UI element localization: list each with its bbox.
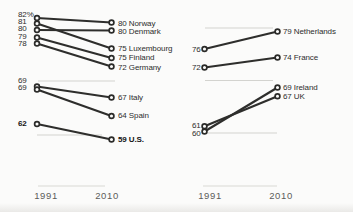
value-label-1991-spain: 69: [18, 83, 27, 93]
value-label-1991-netherlands: 76: [192, 45, 201, 55]
country-label-finland: 75 Finland: [118, 53, 154, 63]
country-label-germany: 72 Germany: [118, 63, 161, 73]
value-label-1991-france: 72: [192, 63, 201, 73]
year-label-1991-right-panel: 1991: [198, 190, 222, 201]
country-label-denmark: 80 Denmark: [118, 27, 161, 37]
country-label-italy: 67 Italy: [118, 93, 143, 103]
value-label-1991-germany: 78: [18, 39, 27, 49]
value-label-1991-ireland: 60: [192, 129, 201, 139]
country-label-netherlands: 79 Netherlands: [283, 27, 336, 37]
value-label-1991-u-s: 62: [18, 119, 27, 129]
year-label-2010-left-panel: 2010: [95, 190, 119, 201]
slopegraph-figure: 82%80 Norway8175 Luxembourg8080 Denmark7…: [0, 0, 353, 212]
country-label-spain: 64 Spain: [118, 111, 149, 121]
chart-labels-layer: 82%80 Norway8175 Luxembourg8080 Denmark7…: [0, 0, 353, 212]
country-label-u-s: 59 U.S.: [118, 135, 144, 145]
year-label-2010-right-panel: 2010: [269, 190, 293, 201]
country-label-france: 74 France: [283, 53, 318, 63]
country-label-luxembourg: 75 Luxembourg: [118, 44, 172, 54]
country-label-ireland: 69 Ireland: [283, 83, 318, 93]
country-label-uk: 67 UK: [283, 92, 305, 102]
year-label-1991-left-panel: 1991: [34, 190, 58, 201]
